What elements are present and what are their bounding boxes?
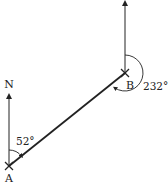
bearing-diagram: N A B 52° 232°	[0, 0, 168, 188]
angle-b-label: 232°	[143, 80, 168, 92]
point-a-label: A	[4, 172, 14, 185]
north-label: N	[4, 78, 14, 91]
angle-a-label: 52°	[16, 135, 35, 147]
point-b-label: B	[126, 79, 134, 92]
line-ab	[9, 73, 125, 166]
angle-arc-a	[9, 150, 22, 156]
